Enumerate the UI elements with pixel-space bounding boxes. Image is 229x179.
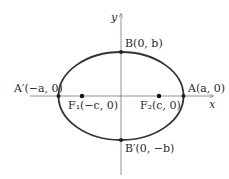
ellipse-diagram: y x B(0, b) B′(0, −b) A′(−a, 0) A(a, 0) …	[0, 0, 229, 179]
label-b: B(0, b)	[125, 37, 163, 50]
vertex-b-prime	[119, 138, 123, 142]
label-a-prime: A′(−a, 0)	[13, 82, 63, 95]
focus-f1	[80, 94, 84, 98]
label-f1: F₁(−c, 0)	[68, 99, 118, 112]
x-axis-label: x	[209, 98, 216, 111]
vertex-a	[182, 94, 186, 98]
label-b-prime: B′(0, −b)	[125, 142, 174, 155]
focus-f2	[157, 94, 161, 98]
label-a: A(a, 0)	[187, 82, 225, 95]
y-axis-label: y	[110, 11, 118, 24]
vertex-b	[119, 50, 123, 54]
label-f2: F₂(c, 0)	[140, 99, 181, 112]
